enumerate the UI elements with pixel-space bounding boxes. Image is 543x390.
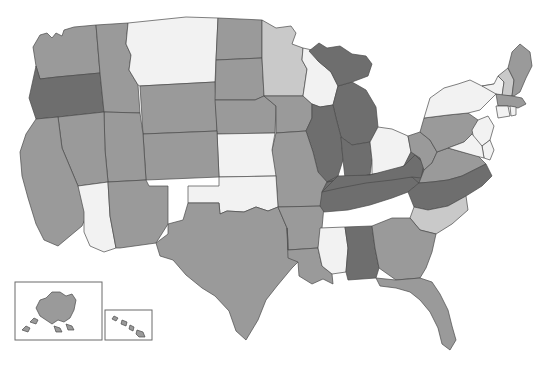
state-colorado[interactable] (143, 131, 219, 180)
state-north-dakota[interactable] (216, 18, 262, 60)
us-choropleth-map (0, 0, 543, 390)
state-utah[interactable] (104, 112, 146, 182)
state-kansas[interactable] (217, 133, 276, 177)
state-rhode-island[interactable] (510, 106, 516, 116)
state-south-dakota[interactable] (215, 58, 264, 100)
state-new-mexico[interactable] (108, 180, 168, 248)
state-minnesota[interactable] (262, 20, 307, 96)
map-canvas (0, 0, 543, 390)
state-hawaii[interactable] (112, 316, 145, 337)
state-alaska[interactable] (36, 292, 76, 324)
state-connecticut[interactable] (496, 106, 510, 118)
state-washington[interactable] (33, 25, 100, 79)
state-wyoming[interactable] (140, 82, 217, 134)
state-montana[interactable] (126, 17, 218, 86)
state-texas[interactable] (156, 203, 302, 340)
state-nebraska[interactable] (215, 96, 276, 134)
state-florida[interactable] (376, 278, 456, 350)
hawaii-inset-frame (105, 310, 152, 340)
